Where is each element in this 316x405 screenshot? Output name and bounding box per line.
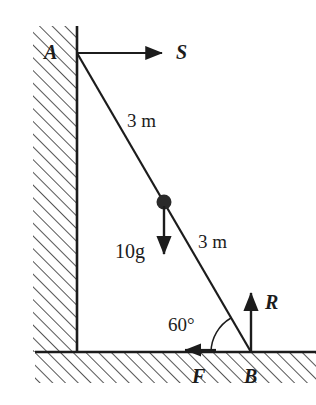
label-weight: 10g — [115, 241, 145, 261]
angle-arc-60 — [211, 318, 231, 352]
label-force-s: S — [176, 42, 187, 62]
wall — [33, 26, 77, 352]
label-length-lower: 3 m — [198, 232, 227, 251]
label-force-f: F — [192, 366, 205, 386]
physics-diagram: A S R F B 3 m 3 m 10g 60° — [0, 0, 316, 405]
label-point-b: B — [244, 366, 257, 386]
label-force-r: R — [265, 292, 278, 312]
ground — [35, 352, 316, 383]
label-length-upper: 3 m — [127, 111, 156, 130]
label-angle-60: 60° — [168, 315, 195, 334]
label-point-a: A — [44, 42, 57, 62]
